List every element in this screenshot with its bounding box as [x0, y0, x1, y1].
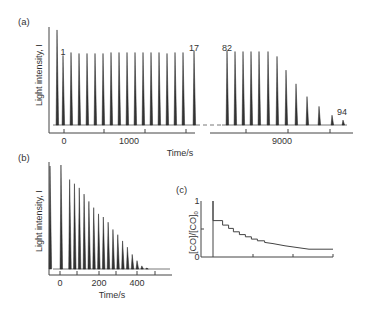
peak	[107, 222, 110, 269]
peak-label-1: 1	[60, 47, 65, 57]
panel-a-xtick-1000: 1000	[119, 136, 139, 146]
peak	[306, 97, 309, 125]
peak	[131, 254, 134, 269]
peak	[174, 52, 177, 125]
peak	[295, 84, 298, 125]
peak	[182, 52, 185, 125]
peak	[136, 261, 139, 269]
panel-c-ytick-1: 1	[194, 196, 199, 206]
peak	[234, 52, 237, 126]
peak	[56, 30, 59, 125]
figure: (a) Light intensity, I 0 1000 9000 Time/…	[0, 0, 366, 309]
peak	[60, 165, 63, 269]
peak	[83, 194, 86, 269]
peak	[78, 188, 81, 269]
peak	[102, 53, 105, 125]
peak	[267, 52, 270, 126]
panel-b-xtick-200: 200	[91, 278, 106, 288]
panel-b-xlabel: Time/s	[99, 290, 126, 300]
peak	[117, 235, 120, 269]
peak	[126, 247, 129, 269]
panel-c-label: (c)	[176, 184, 187, 195]
panel-b-label: (b)	[18, 152, 30, 163]
peak	[331, 115, 334, 125]
peak	[88, 201, 91, 269]
peak	[250, 52, 253, 126]
panel-a-peaks	[56, 30, 345, 125]
panel-c-ytick-0: 0	[194, 252, 199, 262]
peak-label-94: 94	[337, 107, 347, 117]
peak	[193, 51, 196, 125]
peak	[126, 52, 129, 125]
peak	[150, 52, 153, 125]
peak	[226, 51, 229, 125]
peak	[276, 56, 279, 125]
peak	[78, 53, 81, 125]
peak	[112, 229, 115, 269]
panel-b-ylabel: Light intensity, I	[34, 190, 44, 252]
panel-c-ylabel: [CO]/[CO]0	[188, 210, 199, 254]
panel-a-xlabel: Time/s	[167, 148, 194, 158]
peak	[93, 208, 96, 269]
peak	[69, 180, 72, 269]
peak	[158, 52, 161, 125]
peak-label-82: 82	[222, 43, 232, 53]
peak	[285, 70, 288, 125]
panel-a-label: (a)	[18, 16, 30, 27]
peak	[94, 53, 97, 125]
peak	[70, 52, 73, 125]
peak	[318, 106, 321, 125]
peak	[258, 52, 261, 126]
peak	[118, 52, 121, 125]
peak	[98, 214, 101, 269]
panel-c-axes	[201, 201, 333, 257]
peak	[166, 53, 169, 125]
panel-b-axes	[49, 162, 172, 275]
peak-label-17: 17	[189, 43, 199, 53]
panel-b-xtick-0: 0	[57, 278, 62, 288]
panel-a-xtick-0: 0	[61, 136, 66, 146]
panel-b-xtick-400: 400	[129, 278, 144, 288]
peak	[342, 120, 345, 125]
peak	[86, 53, 89, 125]
panel-a-xtick-9000: 9000	[272, 136, 292, 146]
peak	[102, 217, 105, 269]
peak	[62, 55, 65, 125]
peak	[134, 52, 137, 125]
peak	[146, 268, 149, 269]
panel-a-ylabel: Light intensity, I	[34, 44, 44, 106]
peak	[110, 52, 113, 125]
panel-c-curve	[213, 201, 333, 257]
peak	[74, 184, 77, 269]
peak	[141, 266, 144, 269]
peak	[242, 52, 245, 126]
peak	[142, 52, 145, 125]
peak	[122, 241, 125, 269]
panel-b-peaks	[49, 165, 148, 269]
